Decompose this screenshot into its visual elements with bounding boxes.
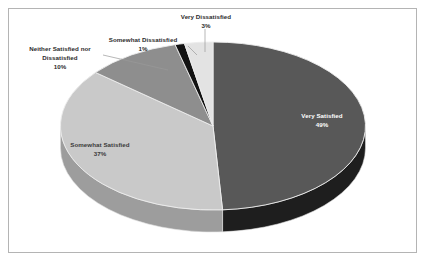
label-very-satisfied-pct: 49% bbox=[291, 121, 353, 130]
label-very-dissatisfied: Very Dissatisfied 3% bbox=[176, 13, 236, 31]
pie-chart-graphic bbox=[0, 0, 426, 262]
label-very-satisfied-text: Very Satisfied bbox=[301, 112, 342, 119]
pie-chart: Very Dissatisfied 3% Somewhat Dissatisfi… bbox=[0, 0, 426, 262]
label-somewhat-satisfied-text: Somewhat Satisfied bbox=[70, 141, 129, 148]
label-somewhat-satisfied: Somewhat Satisfied 37% bbox=[57, 141, 143, 159]
label-neither-satisfied-nor-dissatisfied-pct: 10% bbox=[18, 63, 102, 72]
label-neither-satisfied-nor-dissatisfied: Neither Satisfied nor Dissatisfied 10% bbox=[18, 45, 102, 72]
label-neither-satisfied-nor-dissatisfied-text: Neither Satisfied nor Dissatisfied bbox=[29, 45, 91, 61]
label-somewhat-dissatisfied-text: Somewhat Dissatisfied bbox=[109, 36, 177, 43]
label-somewhat-dissatisfied-pct: 1% bbox=[102, 45, 184, 54]
label-somewhat-satisfied-pct: 37% bbox=[57, 150, 143, 159]
label-very-satisfied: Very Satisfied 49% bbox=[291, 112, 353, 130]
label-very-dissatisfied-pct: 3% bbox=[176, 22, 236, 31]
label-very-dissatisfied-text: Very Dissatisfied bbox=[181, 13, 231, 20]
label-somewhat-dissatisfied: Somewhat Dissatisfied 1% bbox=[102, 36, 184, 54]
